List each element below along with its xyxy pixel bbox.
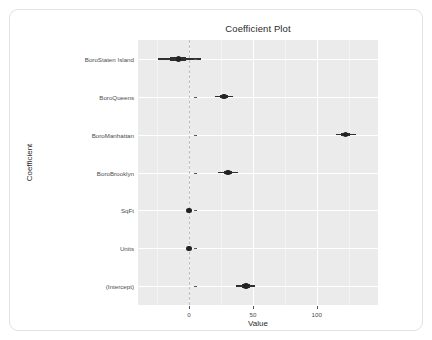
- x-axis-tick-mark: [189, 306, 190, 309]
- y-axis-tick-label: BoroStaten Island: [85, 55, 134, 62]
- y-axis-tick-mark: [194, 59, 197, 60]
- y-axis-tick-mark: [194, 210, 197, 211]
- y-axis-title: Coefficient: [25, 118, 34, 208]
- y-axis-tick-label: BoroBrooklyn: [97, 169, 134, 176]
- grid-line-major-horizontal: [138, 248, 378, 249]
- grid-line-major-horizontal: [138, 97, 378, 98]
- y-axis-tick-label: (Intercept): [106, 283, 134, 290]
- x-axis-title: Value: [138, 319, 378, 328]
- coefficient-point[interactable]: [186, 246, 191, 251]
- plot-card: Coefficient Plot BoroStaten IslandBoroQu…: [9, 9, 423, 331]
- y-axis-tick-mark: [194, 248, 197, 249]
- y-axis-tick-label: BoroManhattan: [92, 131, 134, 138]
- plot-panel: [138, 40, 378, 305]
- coefficient-point[interactable]: [343, 132, 348, 137]
- coefficient-point[interactable]: [186, 208, 191, 213]
- x-axis-tick-label: 50: [249, 311, 256, 318]
- y-axis-tick-label: Units: [120, 245, 134, 252]
- zero-reference-line: [189, 40, 190, 305]
- y-axis-tick-mark: [194, 97, 197, 98]
- y-axis-tick-mark: [194, 286, 197, 287]
- x-axis-tick-label: 0: [187, 311, 190, 318]
- x-axis-tick-mark: [317, 306, 318, 309]
- coefficient-point[interactable]: [221, 94, 226, 99]
- x-axis-tick-mark: [253, 306, 254, 309]
- coefficient-point[interactable]: [243, 283, 248, 288]
- screenshot-root: Coefficient Plot BoroStaten IslandBoroQu…: [0, 0, 432, 340]
- coefficient-point[interactable]: [225, 170, 230, 175]
- grid-line-major-horizontal: [138, 286, 378, 287]
- y-axis-tick-mark: [194, 173, 197, 174]
- y-axis-tick-labels: BoroStaten IslandBoroQueensBoroManhattan…: [70, 40, 134, 305]
- grid-line-major-horizontal: [138, 173, 378, 174]
- x-axis-tick-label: 100: [312, 311, 322, 318]
- grid-line-major-horizontal: [138, 210, 378, 211]
- y-axis-tick-label: BoroQueens: [99, 93, 134, 100]
- coefficient-point[interactable]: [176, 56, 181, 61]
- page-title: Coefficient Plot: [138, 23, 378, 34]
- y-axis-tick-mark: [194, 135, 197, 136]
- y-axis-tick-label: SqFt: [121, 207, 134, 214]
